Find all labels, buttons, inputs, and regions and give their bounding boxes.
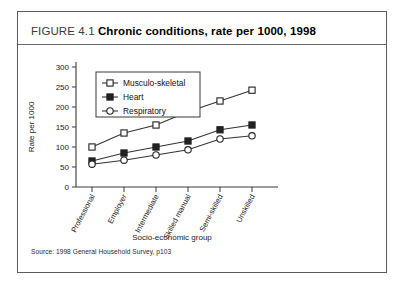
data-point bbox=[153, 144, 159, 150]
legend-label: Heart bbox=[123, 92, 144, 102]
data-point bbox=[121, 157, 127, 163]
line-chart: 050100150200250300Rate per 1000Professio… bbox=[18, 44, 388, 244]
data-point bbox=[89, 161, 95, 167]
data-point bbox=[153, 152, 159, 158]
data-point bbox=[217, 98, 223, 104]
y-tick-label: 100 bbox=[56, 143, 70, 152]
data-point bbox=[185, 147, 191, 153]
figure-frame: FIGURE 4.1 Chronic conditions, rate per … bbox=[17, 11, 387, 273]
y-tick-label: 50 bbox=[60, 163, 69, 172]
x-axis-title: Socio-economic group bbox=[132, 233, 212, 242]
legend-marker bbox=[107, 108, 113, 114]
x-tick-label: Employer bbox=[106, 192, 129, 225]
data-point bbox=[121, 130, 127, 136]
legend-label: Respiratory bbox=[123, 106, 167, 116]
data-point bbox=[249, 133, 255, 139]
data-point bbox=[249, 122, 255, 128]
data-point bbox=[217, 127, 223, 133]
y-tick-label: 150 bbox=[56, 123, 70, 132]
data-point bbox=[185, 138, 191, 144]
data-point bbox=[89, 144, 95, 150]
y-axis-title: Rate per 1000 bbox=[27, 101, 36, 152]
x-tick-label: Intermediate bbox=[133, 193, 161, 235]
data-point bbox=[153, 122, 159, 128]
data-point bbox=[249, 87, 255, 93]
series-line-heart bbox=[92, 125, 252, 161]
y-tick-label: 0 bbox=[65, 183, 70, 192]
x-tick-label: Professional bbox=[69, 192, 97, 233]
legend-marker bbox=[107, 94, 113, 100]
legend-marker bbox=[107, 80, 113, 86]
figure-caption: Chronic conditions, rate per 1000, 1998 bbox=[98, 25, 316, 37]
y-tick-label: 250 bbox=[56, 83, 70, 92]
x-tick-label: Unskilled bbox=[234, 193, 256, 224]
legend-label: Musculo-skeletal bbox=[123, 78, 186, 88]
data-point bbox=[217, 136, 223, 142]
page-title: FIGURE 4.1 Chronic conditions, rate per … bbox=[31, 25, 316, 37]
series-line-respiratory bbox=[92, 136, 252, 164]
source-note: Source: 1998 General Household Survey, p… bbox=[31, 248, 171, 255]
y-tick-label: 300 bbox=[56, 63, 70, 72]
figure-number: FIGURE 4.1 bbox=[31, 25, 95, 37]
data-point bbox=[121, 150, 127, 156]
y-tick-label: 200 bbox=[56, 103, 70, 112]
x-tick-label: Semi-skilled bbox=[198, 193, 225, 233]
